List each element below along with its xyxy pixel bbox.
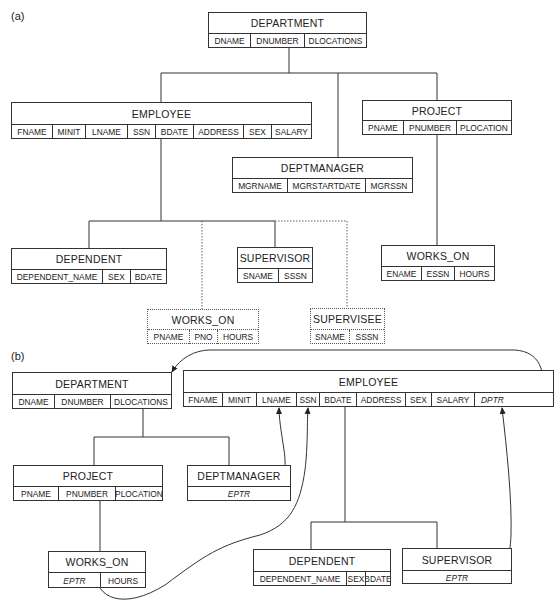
field-eptr: EPTR — [188, 487, 290, 501]
record-b-department: DEPARTMENT DNAME DNUMBER DLOCATIONS — [12, 372, 172, 409]
field-plocation: PLOCATION — [116, 487, 162, 501]
field-hours: HOURS — [455, 267, 494, 281]
record-title: DEPARTMENT — [209, 13, 366, 34]
field-pname: PNAME — [148, 330, 190, 344]
record-title: DEPARTMENT — [13, 373, 171, 395]
record-b-project: PROJECT PNAME PNUMBER PLOCATION — [13, 465, 163, 501]
field-sex: SEX — [406, 393, 432, 407]
field-ssn: SSN — [128, 125, 156, 139]
part-a-label: (a) — [11, 10, 24, 22]
field-pnumber: PNUMBER — [404, 121, 457, 135]
record-title: WORKS_ON — [49, 552, 145, 573]
field-salary: SALARY — [272, 125, 311, 139]
field-sex: SEX — [347, 572, 366, 586]
record-b-employee: EMPLOYEE FNAME MINIT LNAME SSN BDATE ADD… — [183, 370, 554, 407]
field-bdate: BDATE — [156, 125, 194, 139]
edge-b-dept-project — [94, 409, 143, 465]
record-a-works-on: WORKS_ON ENAME ESSN HOURS — [381, 245, 495, 281]
record-title: SUPERVISEE — [311, 309, 384, 330]
field-minit: MINIT — [223, 393, 257, 407]
field-essn: ESSN — [422, 267, 455, 281]
field-mgrstartdate: MGRSTARTDATE — [288, 179, 366, 193]
field-pname: PNAME — [14, 487, 59, 501]
record-a-department: DEPARTMENT DNAME DNUMBER DLOCATIONS — [208, 12, 367, 48]
record-a-dependent: DEPENDENT DEPENDENT_NAME SEX BDATE — [11, 248, 167, 284]
field-fname: FNAME — [12, 125, 53, 139]
field-lname: LNAME — [257, 393, 297, 407]
connector-lines — [0, 0, 560, 614]
field-plocation: PLOCATION — [457, 121, 511, 135]
field-pnumber: PNUMBER — [59, 487, 116, 501]
field-bdate: BDATE — [366, 572, 390, 586]
record-b-dependent: DEPENDENT DEPENDENT_NAME SEX BDATE — [253, 549, 391, 586]
field-address: ADDRESS — [357, 393, 406, 407]
record-b-deptmanager: DEPTMANAGER EPTR — [187, 465, 291, 501]
field-dnumber: DNUMBER — [55, 395, 111, 409]
field-bdate: BDATE — [320, 393, 357, 407]
record-title: DEPTMANAGER — [233, 158, 412, 179]
record-title: EMPLOYEE — [12, 103, 311, 125]
record-a-project: PROJECT PNAME PNUMBER PLOCATION — [362, 100, 512, 135]
field-dname: DNAME — [209, 34, 251, 48]
field-address: ADDRESS — [194, 125, 244, 139]
field-sex: SEX — [244, 125, 272, 139]
field-dptr: DPTR — [475, 393, 553, 407]
record-title: EMPLOYEE — [184, 371, 553, 393]
field-sssn: SSSN — [350, 330, 384, 344]
edge-b-dept-deptmanager — [143, 437, 229, 465]
record-title: WORKS_ON — [382, 246, 494, 267]
field-hours: HOURS — [218, 330, 258, 344]
record-b-works-on: WORKS_ON EPTR HOURS — [48, 551, 146, 588]
field-salary: SALARY — [432, 393, 475, 407]
record-title: PROJECT — [14, 466, 162, 487]
field-bdate: BDATE — [131, 270, 166, 284]
field-lname: LNAME — [86, 125, 128, 139]
field-minit: MINIT — [53, 125, 86, 139]
field-mgrssn: MGRSSN — [366, 179, 412, 193]
field-sname: SNAME — [311, 330, 350, 344]
record-title: SUPERVISOR — [238, 248, 312, 269]
field-ename: ENAME — [382, 267, 422, 281]
record-title: DEPENDENT — [12, 249, 166, 270]
field-dependent-name: DEPENDENT_NAME — [254, 572, 347, 586]
record-a-supervisor: SUPERVISOR SNAME SSSN — [237, 247, 313, 283]
field-dlocations: DLOCATIONS — [111, 395, 171, 409]
part-b-label: (b) — [11, 350, 24, 362]
record-title: DEPENDENT — [254, 550, 390, 572]
field-fname: FNAME — [184, 393, 223, 407]
field-eptr: EPTR — [403, 571, 511, 584]
field-hours: HOURS — [101, 573, 145, 588]
record-a-employee: EMPLOYEE FNAME MINIT LNAME SSN BDATE ADD… — [11, 102, 312, 139]
record-title: DEPTMANAGER — [188, 466, 290, 487]
field-sssn: SSSN — [279, 269, 312, 283]
record-a-supervisee-virtual: SUPERVISEE SNAME SSSN — [310, 308, 385, 344]
field-sname: SNAME — [238, 269, 279, 283]
field-dnumber: DNUMBER — [251, 34, 305, 48]
record-a-works-on-virtual: WORKS_ON PNAME PNO HOURS — [147, 309, 259, 344]
field-ssn: SSN — [297, 393, 320, 407]
record-title: WORKS_ON — [148, 310, 258, 330]
record-title: SUPERVISOR — [403, 549, 511, 571]
field-dname: DNAME — [13, 395, 55, 409]
record-b-supervisor: SUPERVISOR EPTR — [402, 548, 512, 584]
record-title: PROJECT — [363, 101, 511, 121]
edge-b-employee-dependent — [311, 406, 345, 549]
field-pname: PNAME — [363, 121, 404, 135]
field-eptr: EPTR — [49, 573, 101, 588]
field-sex: SEX — [103, 270, 131, 284]
edge-b-employee-supervisor — [345, 522, 437, 548]
field-pno: PNO — [190, 330, 218, 344]
field-dlocations: DLOCATIONS — [305, 34, 366, 48]
field-mgrname: MGRNAME — [233, 179, 288, 193]
record-a-deptmanager: DEPTMANAGER MGRNAME MGRSTARTDATE MGRSSN — [232, 157, 413, 193]
field-dependent-name: DEPENDENT_NAME — [12, 270, 103, 284]
